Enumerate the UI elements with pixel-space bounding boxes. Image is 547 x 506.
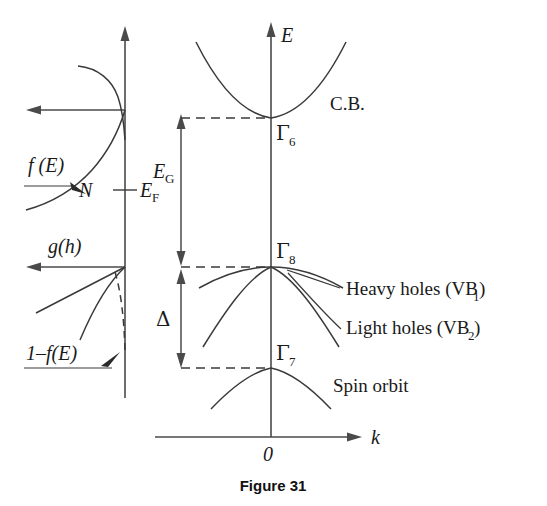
- heavy-holes-tail: ): [479, 278, 485, 300]
- gamma6-subscript: 6: [289, 134, 296, 149]
- heavy-holes-text: Heavy holes (VB: [346, 278, 478, 300]
- gamma7-symbol: Γ: [276, 341, 290, 365]
- fermi-function-label: f (E): [28, 154, 64, 177]
- conduction-band-label: C.B.: [330, 93, 365, 114]
- light-holes-text: Light holes (VB: [346, 317, 470, 339]
- gamma8-label: Γ 8: [276, 239, 296, 267]
- hole-occupancy-dashed-curve: [115, 272, 125, 350]
- spin-orbit-label: Spin orbit: [333, 375, 409, 396]
- fermi-level-annotation: N E F: [78, 179, 159, 205]
- fermi-energy-subscript: F: [152, 190, 159, 205]
- left-panel-vertical-axis: [121, 26, 130, 398]
- light-holes-label: Light holes (VB 2 ): [346, 317, 480, 343]
- left-panel-upper-axis: [26, 106, 125, 115]
- one-minus-f-label: 1–f(E): [26, 342, 77, 365]
- band-structure-figure: f (E) N E F g(h) 1–f(E): [0, 0, 547, 506]
- origin-label: 0: [263, 443, 273, 465]
- spin-orbit-splitting-measure: Δ: [156, 269, 186, 368]
- momentum-axis: k 0: [155, 426, 381, 465]
- gamma8-symbol: Γ: [276, 239, 290, 263]
- fermi-function-annotation: f (E): [24, 154, 86, 194]
- delta-label: Δ: [156, 307, 170, 331]
- light-holes-leader-line: [288, 273, 341, 329]
- hole-dos-line: [36, 267, 125, 313]
- left-panel-lower-axis: [26, 263, 125, 272]
- band-gap-label: E: [152, 160, 165, 182]
- heavy-holes-label: Heavy holes (VB 1 ): [346, 278, 485, 304]
- band-gap-subscript: G: [165, 171, 174, 186]
- one-minus-fermi-annotation: 1–f(E): [24, 342, 120, 368]
- hole-dos-label: g(h): [48, 235, 82, 258]
- figure-caption: Figure 31: [240, 477, 307, 494]
- gamma8-subscript: 8: [289, 252, 296, 267]
- momentum-axis-label: k: [371, 426, 381, 448]
- energy-axis-label: E: [280, 24, 293, 46]
- gamma7-subscript: 7: [289, 354, 296, 369]
- figure-container: f (E) N E F g(h) 1–f(E): [0, 0, 547, 506]
- gamma6-label: Γ 6: [276, 121, 296, 149]
- light-holes-tail: ): [474, 317, 480, 339]
- gamma7-label: Γ 7: [276, 341, 296, 369]
- carrier-density-label: N: [78, 179, 94, 201]
- gamma6-symbol: Γ: [276, 121, 290, 145]
- fermi-energy-label: E: [139, 179, 152, 201]
